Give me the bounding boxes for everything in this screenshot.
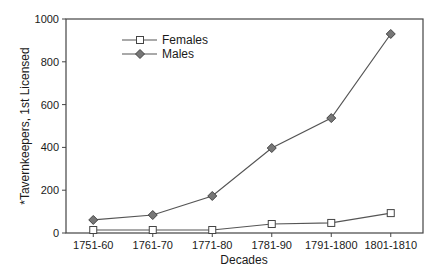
x-axis: 1751-601761-701771-801781-901791-1800180… (73, 233, 417, 251)
square-marker-icon (90, 227, 97, 234)
series-males (89, 29, 396, 224)
series-females (90, 210, 395, 234)
square-marker-icon (209, 227, 216, 234)
legend-label: Males (162, 47, 194, 61)
y-tick-label: 800 (41, 56, 59, 68)
x-tick-label: 1771-80 (192, 239, 232, 251)
x-tick-label: 1791-1800 (305, 239, 358, 251)
plot-border (66, 19, 423, 233)
square-marker-icon (149, 227, 156, 234)
square-marker-icon (387, 210, 394, 217)
legend-label: Females (162, 33, 208, 47)
legend: FemalesMales (122, 33, 208, 61)
y-tick-label: 200 (41, 184, 59, 196)
series-line (93, 213, 391, 230)
square-marker-icon (137, 37, 144, 44)
x-tick-label: 1781-90 (252, 239, 292, 251)
legend-item-males: Males (122, 47, 194, 61)
x-tick-label: 1801-1810 (364, 239, 417, 251)
y-tick-label: 1000 (35, 13, 59, 25)
series-layer (89, 29, 396, 233)
y-tick-label: 400 (41, 141, 59, 153)
y-tick-label: 600 (41, 99, 59, 111)
y-axis-title: *Tavernkeepers, 1st Licensed (18, 47, 32, 204)
diamond-marker-icon (89, 215, 98, 224)
diamond-marker-icon (148, 211, 157, 220)
diamond-marker-icon (327, 114, 336, 123)
square-marker-icon (328, 219, 335, 226)
series-line (93, 34, 391, 220)
y-tick-label: 0 (53, 227, 59, 239)
diamond-marker-icon (386, 29, 395, 38)
x-tick-label: 1751-60 (73, 239, 113, 251)
diamond-marker-icon (136, 50, 145, 59)
square-marker-icon (268, 221, 275, 228)
legend-item-females: Females (122, 33, 208, 47)
y-axis: 02004006008001000 (35, 13, 66, 239)
x-tick-label: 1761-70 (133, 239, 173, 251)
x-axis-title: Decades (220, 253, 267, 267)
plot-area (66, 19, 423, 233)
line-chart: 02004006008001000 1751-601761-701771-801… (0, 0, 447, 280)
